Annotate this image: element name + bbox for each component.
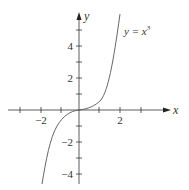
x-tick-label-2: 2 (117, 114, 123, 126)
y-tick-label-neg2: −2 (61, 136, 73, 148)
curve-label-main: y = x (123, 25, 147, 37)
x-tick-label-neg2: −2 (35, 114, 47, 126)
x-axis-arrow-icon (163, 108, 171, 113)
cubic-function-plot: x −2 2 y 4 2 −2 −4 y = x3 (0, 0, 189, 190)
curve-label: y = x3 (123, 24, 151, 37)
y-tick-label-neg4: −4 (61, 168, 73, 180)
y-axis: y 4 2 −2 −4 (61, 9, 90, 184)
x-axis: x −2 2 (8, 103, 179, 126)
cubic-curve (42, 14, 120, 184)
y-axis-arrow-icon (77, 12, 82, 20)
y-axis-label: y (83, 9, 90, 23)
y-tick-label-4: 4 (68, 40, 74, 52)
y-tick-label-2: 2 (68, 72, 74, 84)
curve-label-exponent: 3 (146, 24, 151, 32)
x-axis-label: x (172, 103, 179, 117)
